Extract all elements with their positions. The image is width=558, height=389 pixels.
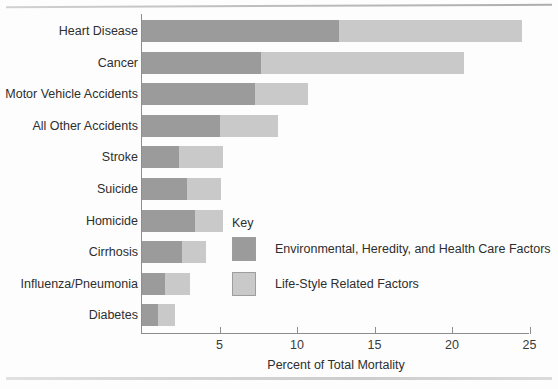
bar-segment-environmental	[142, 273, 165, 295]
bar-row: All Other Accidents	[0, 115, 558, 137]
category-label: Heart Disease	[0, 24, 138, 38]
x-tick-label-25: 25	[523, 338, 537, 352]
bar-segment-environmental	[142, 52, 261, 74]
legend-label: Life-Style Related Factors	[275, 277, 419, 291]
bar-row: Diabetes	[0, 304, 558, 326]
x-tick-5	[220, 327, 221, 334]
category-label: Cancer	[0, 56, 138, 70]
bar-segment-environmental	[142, 210, 195, 232]
bar-row: Cancer	[0, 52, 558, 74]
stacked-bar	[142, 146, 223, 168]
mortality-stacked-bar-chart: 510152025 Heart DiseaseCancerMotor Vehic…	[0, 0, 558, 389]
bar-segment-environmental	[142, 146, 179, 168]
stacked-bar	[142, 210, 223, 232]
category-label: All Other Accidents	[0, 119, 138, 133]
bar-segment-environmental	[142, 115, 220, 137]
category-label: Suicide	[0, 182, 138, 196]
x-tick-label-5: 5	[216, 338, 223, 352]
stacked-bar	[142, 52, 464, 74]
bar-segment-lifestyle	[158, 304, 175, 326]
bar-segment-environmental	[142, 241, 182, 263]
bar-segment-lifestyle	[182, 241, 205, 263]
bar-row: Suicide	[0, 178, 558, 200]
x-tick-10	[297, 327, 298, 334]
bar-row: Stroke	[0, 146, 558, 168]
bar-segment-lifestyle	[195, 210, 223, 232]
x-tick-label-20: 20	[445, 338, 459, 352]
x-tick-25	[530, 327, 531, 334]
stacked-bar	[142, 83, 308, 105]
bar-segment-lifestyle	[261, 52, 464, 74]
stacked-bar	[142, 241, 206, 263]
category-label: Motor Vehicle Accidents	[0, 87, 138, 101]
bar-segment-lifestyle	[179, 146, 222, 168]
bar-segment-lifestyle	[165, 273, 190, 295]
x-tick-label-15: 15	[368, 338, 382, 352]
legend-swatch-environmental	[232, 237, 256, 261]
bar-segment-environmental	[142, 178, 187, 200]
x-axis-line	[141, 333, 529, 334]
x-tick-15	[375, 327, 376, 334]
bar-segment-lifestyle	[220, 115, 279, 137]
legend-entry: Life-Style Related Factors	[232, 272, 542, 296]
stacked-bar	[142, 273, 190, 295]
x-tick-20	[452, 327, 453, 334]
bar-segment-environmental	[142, 83, 255, 105]
legend-entries: Environmental, Heredity, and Health Care…	[232, 237, 542, 296]
stacked-bar	[142, 115, 278, 137]
legend-entry: Environmental, Heredity, and Health Care…	[232, 237, 542, 261]
bar-segment-environmental	[142, 20, 339, 42]
bar-segment-environmental	[142, 304, 158, 326]
bar-segment-lifestyle	[339, 20, 522, 42]
stacked-bar	[142, 20, 522, 42]
x-tick-label-10: 10	[290, 338, 304, 352]
bar-segment-lifestyle	[187, 178, 221, 200]
category-label: Stroke	[0, 150, 138, 164]
category-label: Influenza/Pneumonia	[0, 277, 138, 291]
x-axis-label: Percent of Total Mortality	[267, 358, 404, 372]
bar-segment-lifestyle	[255, 83, 308, 105]
stacked-bar	[142, 304, 175, 326]
page-rule-top	[6, 4, 552, 8]
legend-label: Environmental, Heredity, and Health Care…	[275, 242, 551, 256]
category-label: Diabetes	[0, 308, 138, 322]
stacked-bar	[142, 178, 221, 200]
bar-row: Motor Vehicle Accidents	[0, 83, 558, 105]
legend: Key Environmental, Heredity, and Health …	[232, 216, 542, 307]
page-rule-bottom	[6, 377, 552, 380]
legend-swatch-lifestyle	[232, 272, 256, 296]
category-label: Cirrhosis	[0, 245, 138, 259]
legend-title: Key	[232, 216, 542, 230]
bar-row: Heart Disease	[0, 20, 558, 42]
category-label: Homicide	[0, 214, 138, 228]
